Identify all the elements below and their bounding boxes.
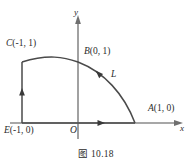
point-label-A: A(1, 0) (148, 104, 174, 114)
curve-label-L: L (111, 70, 116, 80)
figure-caption: 图 10.18 (0, 146, 192, 160)
y-axis (75, 15, 81, 139)
point-label-B: B(0, 1) (84, 47, 110, 57)
figure-container: C(-1, 1) B(0, 1) A(1, 0) E(-1, 0) O L x … (0, 0, 192, 165)
y-axis-label: y (74, 8, 78, 17)
point-label-B-coord: (0, 1) (90, 46, 111, 56)
arrow-marker-bottom (98, 120, 106, 126)
figure-graphic (0, 0, 192, 165)
point-label-E-coord: (-1, 0) (10, 125, 34, 135)
origin-label: O (70, 126, 77, 136)
arrow-marker-curve (96, 71, 103, 79)
point-label-C-coord: (-1, 1) (12, 38, 36, 48)
point-label-E: E(-1, 0) (4, 126, 34, 136)
point-label-A-coord: (1, 0) (154, 103, 175, 113)
x-axis-label: x (180, 124, 184, 133)
arrow-marker-left (19, 88, 25, 96)
point-label-C: C(-1, 1) (6, 39, 36, 49)
orientation-arrow-markers (19, 71, 105, 126)
